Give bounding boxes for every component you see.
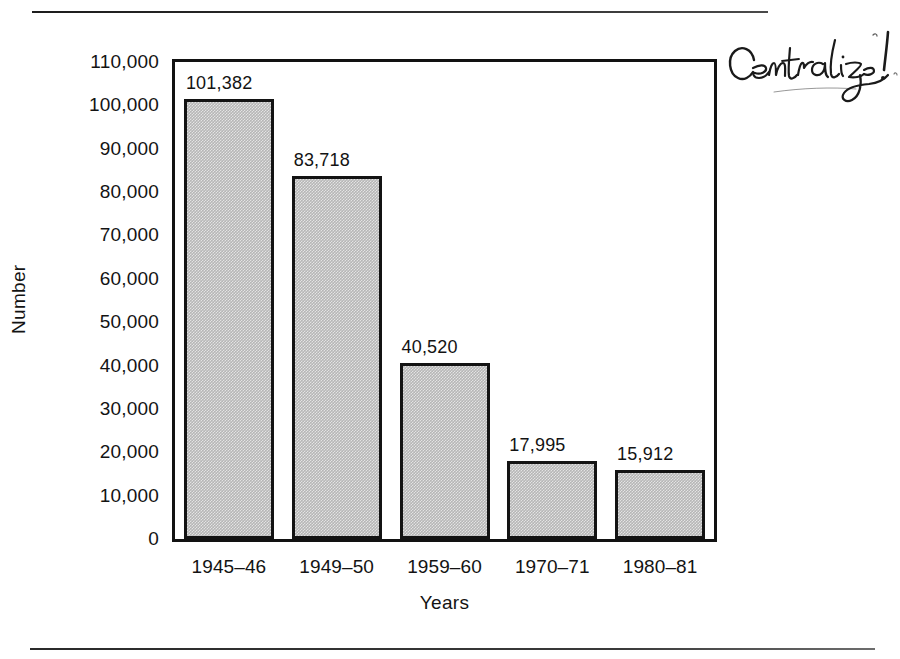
- bar: [184, 99, 274, 539]
- x-axis-title: Years: [172, 592, 717, 614]
- bar-value-label: 40,520: [402, 337, 458, 358]
- bar: [292, 176, 382, 539]
- bar-value-label: 15,912: [617, 444, 673, 465]
- y-axis-tick-label: 20,000: [100, 441, 159, 463]
- bar-value-label: 101,382: [186, 73, 252, 94]
- y-axis-title: Number: [8, 234, 48, 364]
- y-axis-tick-label: 70,000: [100, 224, 159, 246]
- bar-chart-figure: 110,000100,00090,00080,00070,00060,00050…: [0, 0, 900, 659]
- handwritten-annotation: [722, 18, 897, 110]
- y-axis-tick-label: 80,000: [100, 181, 159, 203]
- bar: [507, 461, 597, 539]
- bar: [615, 470, 705, 539]
- x-axis-tick-label: 1970–71: [498, 556, 606, 578]
- y-axis-tick-label: 100,000: [89, 94, 159, 116]
- x-axis-tick-label: 1959–60: [391, 556, 499, 578]
- x-axis-tick-label: 1945–46: [175, 556, 283, 578]
- y-axis-tick-label: 60,000: [100, 268, 159, 290]
- y-axis-tick-label: 10,000: [100, 485, 159, 507]
- y-axis-tick-label: 90,000: [100, 138, 159, 160]
- plot-area: [175, 62, 714, 539]
- y-axis-tick-label: 50,000: [100, 311, 159, 333]
- bar-value-label: 83,718: [294, 150, 350, 171]
- y-axis-tick-label: 0: [148, 528, 159, 550]
- bar: [400, 363, 490, 539]
- x-axis-tick-label: 1980–81: [606, 556, 714, 578]
- x-axis-tick-label: 1949–50: [283, 556, 391, 578]
- y-axis-tick-label: 110,000: [90, 51, 159, 73]
- bar-value-label: 17,995: [509, 435, 565, 456]
- y-axis-tick-label: 40,000: [100, 355, 159, 377]
- y-axis-tick-label: 30,000: [100, 398, 159, 420]
